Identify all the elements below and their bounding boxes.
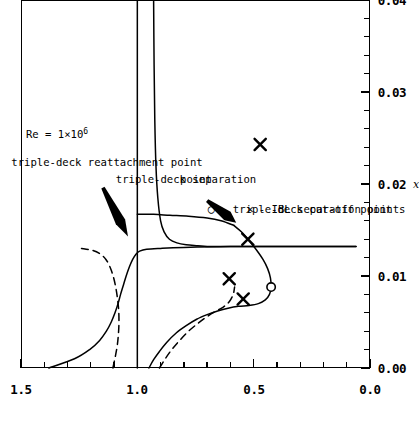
x-tick-label: 0.04 [378,0,407,8]
x-tick-label: 0.00 [378,361,407,376]
tick-mark [113,362,114,368]
reynolds-exponent: 6 [83,127,88,136]
leader-arrow-reattachment [101,187,128,237]
cross-marker [255,139,266,150]
tick-mark [364,257,370,258]
tick-mark [20,359,22,368]
tick-mark [369,359,371,368]
tick-mark [323,362,324,368]
y-tick-label: 1.0 [127,382,148,397]
tick-mark [364,165,370,166]
tick-mark [300,362,301,368]
cross-marker [238,293,249,304]
y-axis-label: x [413,178,419,191]
x-tick-label: 0.02 [378,177,407,192]
tick-mark [276,362,277,368]
tick-mark [364,36,370,37]
curve-0 [49,246,356,368]
tick-mark [90,362,91,368]
tick-mark [206,362,207,368]
tick-mark [364,18,370,19]
tick-mark [364,73,370,74]
tick-mark [137,359,139,368]
tick-mark [253,359,255,368]
cross-marker [242,234,253,245]
tick-mark [44,362,45,368]
tick-mark [364,239,370,240]
curve-3 [159,287,234,368]
circle-marker [267,283,275,291]
tick-mark [364,147,370,148]
tick-mark [364,294,370,295]
tick-mark [364,110,370,111]
circle-marker-icon: ○ [208,204,215,214]
curve-5 [137,214,234,225]
tick-mark [361,183,370,185]
y-tick-label: 0.5 [243,382,264,397]
annotation-separation-point-line2: point [180,173,212,185]
tick-mark [160,362,161,368]
tick-mark [67,362,68,368]
reynolds-prefix: Re = 1×10 [26,129,83,141]
annotation-reattachment-point: triple-deck reattachment point [11,156,202,168]
annotation-reynolds-number: Re = 1×106 [26,126,88,141]
legend-item-ibl-separation-points: ✕ - IBL separation points [246,203,405,215]
tick-mark [364,312,370,313]
x-tick-label: 0.01 [378,269,407,284]
tick-mark [364,55,370,56]
tick-mark [361,91,370,93]
tick-mark [361,275,370,277]
chart-figure: 0.000.010.020.030.040.00.51.01.5 α x Re … [0,0,402,402]
cross-marker [224,273,235,284]
curve-1 [81,248,118,368]
tick-mark [346,362,347,368]
tick-mark [364,128,370,129]
tick-mark [183,362,184,368]
tick-mark [364,331,370,332]
x-tick-label: 0.03 [378,85,407,100]
tick-mark [230,362,231,368]
tick-mark [364,220,370,221]
tick-mark [364,349,370,350]
plot-data-layer [0,0,402,402]
rotated-figure-wrapper: 0.000.010.020.030.040.00.51.01.5 α x Re … [0,0,402,402]
legend-label-ibl-separation-points: - IBL separation points [259,203,406,215]
tick-mark [361,0,370,1]
y-tick-label: 0.0 [359,382,380,397]
y-tick-label: 1.5 [10,382,31,397]
cross-marker-icon: ✕ [246,204,253,214]
